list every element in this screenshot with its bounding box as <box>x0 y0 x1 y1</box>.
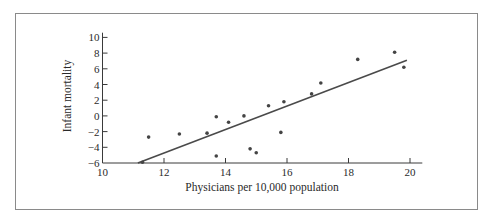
y-tick-label: 8 <box>94 47 100 59</box>
data-point <box>178 132 182 136</box>
data-point <box>147 135 151 139</box>
data-point <box>242 114 246 118</box>
y-axis-title: Infant mortality <box>61 60 74 133</box>
x-tick-label: 14 <box>220 166 232 178</box>
data-point <box>310 92 314 96</box>
data-point <box>356 58 360 62</box>
y-tick-label: 2 <box>94 94 100 106</box>
regression-line <box>138 60 407 163</box>
y-tick-label: 4 <box>94 79 100 91</box>
fit-line <box>138 60 407 163</box>
data-point <box>214 154 218 158</box>
x-tick-label: 12 <box>159 166 170 178</box>
y-tick-label: 0 <box>94 110 100 122</box>
data-point <box>393 51 397 55</box>
x-tick-label: 18 <box>343 166 355 178</box>
x-tick-label: 16 <box>282 166 294 178</box>
data-point <box>267 104 271 108</box>
y-tick-label: 6 <box>94 63 100 75</box>
y-tick-label: 10 <box>89 31 101 43</box>
x-tick-label: 20 <box>405 166 417 178</box>
data-point <box>279 131 283 135</box>
data-point <box>319 81 323 85</box>
y-tick-label: −4 <box>88 141 100 153</box>
x-tick-label: 10 <box>97 166 109 178</box>
data-point <box>402 65 406 69</box>
scatter-plot: −6−4−20246810101214161820 Physicians per… <box>0 0 496 222</box>
data-point <box>254 151 258 155</box>
data-point <box>141 160 145 164</box>
data-point <box>205 131 209 135</box>
data-point <box>248 147 252 151</box>
data-point <box>227 120 231 124</box>
y-tick-label: −2 <box>88 126 100 138</box>
axes: −6−4−20246810101214161820 <box>88 31 423 178</box>
data-point <box>214 115 218 119</box>
x-axis-title: Physicians per 10,000 population <box>185 181 339 194</box>
data-point <box>282 100 286 104</box>
